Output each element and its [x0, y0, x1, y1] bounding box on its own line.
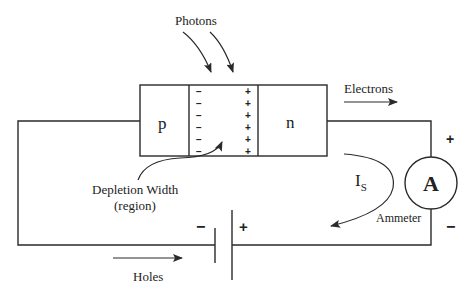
pn-junction: p n − − − − − − + + + + + +	[140, 85, 327, 157]
neg-charge: −	[196, 122, 202, 133]
ammeter-symbol: A	[423, 171, 439, 196]
depletion-region-label: (region)	[114, 198, 156, 213]
holes-label: Holes	[133, 269, 163, 284]
electrons-label: Electrons	[344, 81, 393, 96]
pos-charge: +	[245, 134, 251, 145]
photons-label: Photons	[175, 13, 217, 28]
neg-charge: −	[196, 98, 202, 109]
n-region-label: n	[286, 113, 295, 132]
battery-plus-sign: +	[239, 218, 248, 235]
wire-right-top	[327, 121, 431, 157]
depletion-negative-charges: − − − − − −	[196, 86, 202, 157]
pos-charge: +	[245, 98, 251, 109]
neg-charge: −	[196, 134, 202, 145]
pos-charge: +	[245, 86, 251, 97]
photodiode-diagram: Photons p n − − − − − − + + +	[0, 0, 475, 297]
pos-charge: +	[245, 122, 251, 133]
neg-charge: −	[196, 110, 202, 121]
pos-charge: +	[245, 146, 251, 157]
ammeter-plus-sign: +	[446, 131, 454, 147]
depletion-positive-charges: + + + + + +	[245, 86, 251, 157]
ammeter-label: Ammeter	[376, 211, 421, 225]
junction-outline	[140, 85, 327, 156]
ammeter: A Ammeter + −	[376, 131, 457, 235]
neg-charge: −	[196, 86, 202, 97]
current-label: IS	[355, 171, 367, 193]
photon-arrow-2	[210, 32, 233, 72]
photon-arrow-1	[183, 32, 211, 72]
pos-charge: +	[245, 110, 251, 121]
battery-minus-sign: −	[196, 218, 205, 235]
ammeter-minus-sign: −	[446, 218, 455, 235]
p-region-label: p	[158, 114, 167, 133]
depletion-width-label: Depletion Width	[92, 182, 179, 197]
depletion-pointer-arrow	[138, 142, 222, 180]
